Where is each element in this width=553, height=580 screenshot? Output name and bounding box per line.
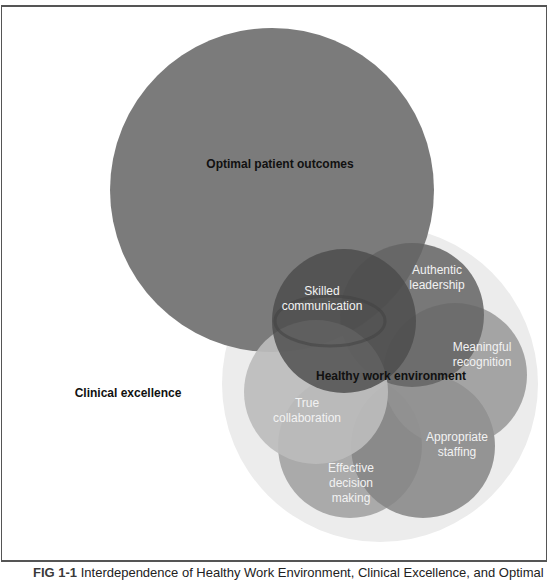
effective-decision-making-label: Effective decision making xyxy=(328,461,374,506)
healthy-work-environment-label: Healthy work environment xyxy=(316,369,466,384)
authentic-leadership-label: Authentic leadership xyxy=(409,263,464,293)
meaningful-recognition-label: Meaningful recognition xyxy=(453,340,512,370)
clinical-excellence-label: Clinical excellence xyxy=(75,386,182,401)
figure-caption: FIG 1-1 Interdependence of Healthy Work … xyxy=(33,565,544,580)
optimal-outcomes-label: Optimal patient outcomes xyxy=(206,157,353,172)
appropriate-staffing-label: Appropriate staffing xyxy=(426,430,488,460)
figure-caption-text: Interdependence of Healthy Work Environm… xyxy=(81,565,544,580)
skilled-communication-label: Skilled communication xyxy=(282,284,363,314)
true-collaboration-label: True collaboration xyxy=(273,396,341,426)
figure-number: FIG 1-1 xyxy=(33,565,77,580)
